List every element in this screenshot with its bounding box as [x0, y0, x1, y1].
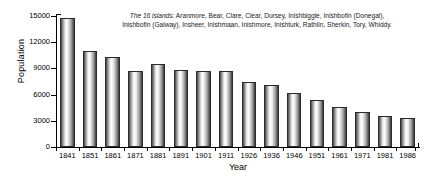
y-axis-top-cap [56, 14, 61, 15]
x-tick-label: 1951 [306, 151, 329, 160]
x-tick-label: 1911 [215, 151, 238, 160]
x-tick-label: 1961 [328, 151, 351, 160]
bar [128, 71, 143, 147]
y-tick-label: 0 [0, 143, 50, 151]
x-tick-label: 1891 [169, 151, 192, 160]
x-tick-label: 1946 [283, 151, 306, 160]
y-tick-label: 9000 [0, 64, 50, 72]
bar [332, 107, 347, 147]
x-tick-label: 1861 [101, 151, 124, 160]
x-axis-title: Year [56, 162, 420, 172]
y-tick-label: 12000 [0, 38, 50, 46]
bar [174, 70, 189, 147]
x-tick-label: 1841 [56, 151, 79, 160]
x-tick-label: 1971 [351, 151, 374, 160]
bar [378, 116, 393, 147]
x-tick-label: 1936 [260, 151, 283, 160]
bar [196, 71, 211, 147]
bar [400, 118, 415, 147]
x-tick-label: 1901 [192, 151, 215, 160]
bar [242, 82, 257, 147]
plot-area [56, 16, 419, 147]
islands-annotation: The 16 islands: Aranmore, Bear, Clare, C… [92, 11, 422, 29]
x-tick [415, 147, 416, 151]
y-tick-label: 15000 [0, 12, 50, 20]
x-tick-label: 1871 [124, 151, 147, 160]
y-tick-label: 6000 [0, 91, 50, 99]
bar [83, 51, 98, 148]
bar [310, 100, 325, 147]
y-tick-label: 3000 [0, 117, 50, 125]
x-tick-label: 1851 [79, 151, 102, 160]
x-tick-label: 1981 [374, 151, 397, 160]
annotation-line1-rest: Aranmore, Bear, Clare, Clear, Dursey, In… [174, 12, 384, 19]
bar [219, 71, 234, 147]
bar [264, 85, 279, 147]
x-tick-label: 1926 [238, 151, 261, 160]
bar [105, 57, 120, 147]
population-bar-chart: Population Year 03000600090001200015000 … [0, 0, 425, 178]
x-tick-label: 1881 [147, 151, 170, 160]
annotation-line2: Inishbofin (Galway), Insheer, Inishmaan,… [122, 21, 392, 28]
bar [355, 112, 370, 147]
x-tick-label: 1986 [396, 151, 419, 160]
annotation-lead: The 16 islands: [130, 12, 175, 19]
bar [60, 18, 75, 147]
bar [287, 93, 302, 147]
bar [151, 64, 166, 147]
